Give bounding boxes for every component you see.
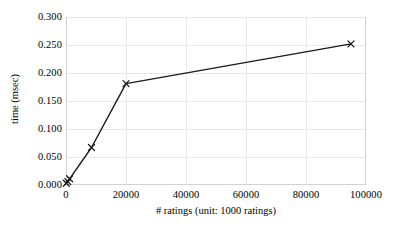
x-axis-title: # ratings (unit: 1000 ratings) [66, 204, 366, 217]
chart-container: 0.300 0.250 0.200 0.150 0.100 0.050 0.00… [0, 0, 401, 231]
x-axis-tick-labels: 0 20000 40000 60000 80000 100000 [0, 0, 401, 231]
x-tick-label-100000: 100000 [326, 189, 401, 201]
y-axis-title: time (msec) [9, 54, 21, 144]
